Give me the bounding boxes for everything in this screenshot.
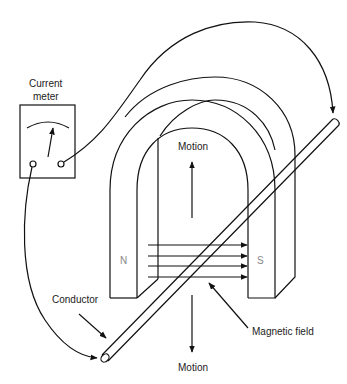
meter-label-line2: meter — [33, 91, 59, 102]
conductor-label: Conductor — [52, 294, 98, 305]
motion-up-label: Motion — [178, 141, 208, 152]
south-pole-label: S — [257, 255, 264, 266]
motion-down-label: Motion — [178, 362, 208, 373]
current-meter — [20, 105, 75, 178]
magnetic-field-label: Magnetic field — [252, 326, 314, 337]
wire-bottom — [24, 167, 97, 358]
magnet-back-outer — [125, 77, 295, 298]
north-pole-label: N — [120, 255, 127, 266]
meter-label-line1: Current — [29, 78, 62, 89]
